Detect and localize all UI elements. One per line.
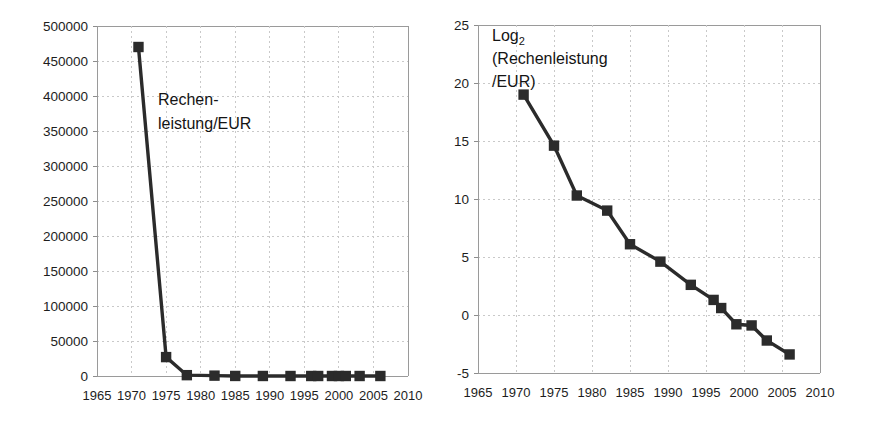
x-tick-label: 1980 [578, 385, 607, 400]
series-label-group: Rechen-leistung/EUR [158, 91, 251, 132]
y-tick-label: 350000 [43, 124, 88, 139]
y-tick-label: 5 [461, 250, 469, 265]
series-label-group: Log2(Rechenleistung/EUR) [492, 27, 608, 90]
data-point-marker [375, 371, 385, 381]
x-tick-label: 1975 [152, 388, 181, 403]
y-tick-label: 10 [454, 192, 469, 207]
data-point-marker [354, 371, 364, 381]
y-tick-label: 25 [454, 18, 469, 33]
log2-scale-line-chart: -505101520251965197019751980198519901995… [437, 0, 874, 439]
data-point-marker [341, 371, 351, 381]
data-point-marker [549, 140, 559, 150]
y-tick-label: 50000 [50, 334, 88, 349]
y-tick-label: 150000 [43, 264, 88, 279]
x-tick-label: 1970 [117, 388, 146, 403]
x-tick-label: 1995 [692, 385, 721, 400]
data-point-marker [625, 239, 635, 249]
data-series [518, 89, 794, 359]
x-axis-tick-labels: 1965197019751980198519901995200020052010 [83, 388, 423, 403]
x-tick-label: 2010 [394, 388, 423, 403]
x-tick-label: 1995 [290, 388, 319, 403]
x-tick-label: 1965 [83, 388, 112, 403]
series-label-line: leistung/EUR [158, 115, 251, 132]
gridlines-group [97, 26, 408, 376]
series-label-line: /EUR) [492, 73, 536, 90]
x-tick-label: 1990 [654, 385, 683, 400]
y-tick-label: 450000 [43, 54, 88, 69]
data-point-marker [762, 335, 772, 345]
x-tick-label: 1990 [255, 388, 284, 403]
linear-scale-line-chart: 0500001000001500002000002500003000003500… [0, 0, 437, 439]
y-tick-label: 20 [454, 76, 469, 91]
y-tick-label: 0 [461, 308, 469, 323]
x-tick-label: 2005 [359, 388, 388, 403]
x-tick-label: 1965 [464, 385, 493, 400]
data-point-marker [784, 349, 794, 359]
y-tick-label: 500000 [43, 19, 88, 34]
x-tick-label: 1975 [540, 385, 569, 400]
x-tick-label: 2010 [806, 385, 835, 400]
data-point-marker [655, 256, 665, 266]
data-point-marker [518, 89, 528, 99]
y-tick-label: 200000 [43, 229, 88, 244]
data-point-marker [602, 205, 612, 215]
chart-figure: 0500001000001500002000002500003000003500… [0, 0, 874, 439]
y-tick-label: 300000 [43, 159, 88, 174]
data-point-marker [182, 370, 192, 380]
series-label-line: (Rechenleistung [492, 50, 608, 67]
x-tick-label: 1980 [186, 388, 215, 403]
data-point-marker [258, 371, 268, 381]
x-axis-tick-labels: 1965197019751980198519901995200020052010 [464, 385, 835, 400]
series-label-line: Rechen- [158, 91, 218, 108]
data-point-marker [285, 371, 295, 381]
chart-panel-linear: 0500001000001500002000002500003000003500… [0, 0, 437, 439]
data-point-marker [746, 320, 756, 330]
chart-panel-log2: -505101520251965197019751980198519901995… [437, 0, 874, 439]
y-tick-label: 0 [80, 369, 88, 384]
x-tick-label: 1985 [221, 388, 250, 403]
y-tick-label: -5 [457, 366, 469, 381]
y-axis-tick-labels: -50510152025 [454, 18, 478, 381]
y-tick-label: 15 [454, 134, 469, 149]
data-point-marker [716, 303, 726, 313]
y-tick-label: 100000 [43, 299, 88, 314]
data-point-marker [209, 370, 219, 380]
series-label-line: Log2 [492, 27, 525, 47]
data-point-marker [686, 280, 696, 290]
data-point-marker [731, 319, 741, 329]
y-tick-label: 400000 [43, 89, 88, 104]
x-tick-label: 1970 [502, 385, 531, 400]
data-point-marker [313, 371, 323, 381]
x-tick-label: 1985 [616, 385, 645, 400]
y-tick-label: 250000 [43, 194, 88, 209]
x-tick-label: 2005 [768, 385, 797, 400]
x-tick-label: 2000 [730, 385, 759, 400]
data-point-marker [230, 371, 240, 381]
x-tick-label: 2000 [324, 388, 353, 403]
data-point-marker [161, 352, 171, 362]
y-axis-tick-labels: 0500001000001500002000002500003000003500… [43, 19, 97, 384]
data-point-marker [133, 42, 143, 52]
data-point-marker [572, 190, 582, 200]
